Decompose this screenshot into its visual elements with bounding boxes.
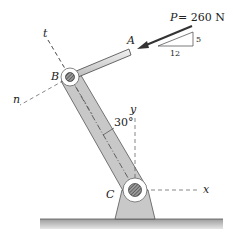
slope-vertical-label: 5 (196, 35, 201, 44)
y-axis-label: y (129, 103, 137, 116)
arm-bc (61, 72, 146, 196)
pin-c (123, 178, 147, 202)
pin-b (61, 68, 79, 86)
point-b-label: B (50, 70, 59, 83)
force-arrow (137, 26, 192, 49)
slope-horizontal-label: 12 (170, 49, 180, 58)
x-axis-label: x (203, 183, 210, 196)
force-symbol-label: P (169, 11, 178, 24)
t-axis-label: t (43, 27, 48, 40)
n-axis-label: n (13, 93, 20, 106)
point-a-label: A (126, 34, 135, 47)
ground (40, 219, 223, 229)
xy-axes (135, 118, 200, 190)
point-c-label: C (106, 188, 115, 201)
angle-label: 30° (114, 116, 134, 129)
mechanics-diagram: P = 260 N 5 12 A B C t n y x 30° (0, 0, 233, 238)
force-value-label: = 260 N (178, 11, 225, 24)
